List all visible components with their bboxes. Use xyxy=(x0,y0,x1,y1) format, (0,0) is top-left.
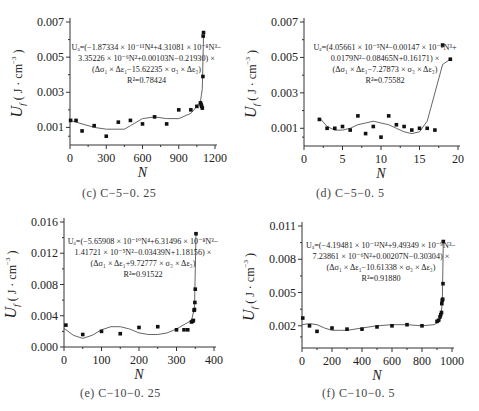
x-axis-label: N xyxy=(133,367,144,382)
fit-equation-line: R²=0.91522 xyxy=(123,270,162,279)
chart-d: 051015200.0010.0030.0050.007NUf ( J · cm… xyxy=(240,0,479,205)
data-point xyxy=(118,332,122,336)
fit-equation-line: R²=0.78424 xyxy=(127,76,166,85)
fit-equation-line: (Δσ₁ × Δε₁−15.62235 × σ₃ × Δε₃) xyxy=(92,65,201,74)
data-point xyxy=(193,301,197,305)
data-point xyxy=(193,287,197,291)
chart-panel-c: 030060090012000.0010.0030.0050.007NUf ( … xyxy=(0,0,240,205)
y-tick-label: 0.001 xyxy=(37,120,64,134)
y-tick-label: 0.002 xyxy=(269,319,296,333)
y-tick-label: 0.007 xyxy=(37,15,64,29)
data-point xyxy=(74,119,78,123)
caption-c: (c) C−5−0. 25 xyxy=(82,186,156,201)
fit-equation-line: Uₐ=(−4.19481 × 10⁻¹²N⁴+9.49349 × 10⁻⁹N³− xyxy=(306,241,456,250)
data-point xyxy=(345,327,349,331)
y-tick-label: 0.001 xyxy=(271,121,298,135)
y-axis-label: Uf ( J · cm−3 ) xyxy=(242,50,261,118)
data-point xyxy=(137,326,141,330)
fit-equation-line: R²=0.91880 xyxy=(361,274,400,283)
data-point xyxy=(177,108,181,112)
x-tick-label: 1000 xyxy=(440,354,464,368)
y-axis-label: Uf ( J · cm−3 ) xyxy=(8,50,27,118)
data-point xyxy=(449,57,453,61)
svg-text:Uf ( J · cm−3 ): Uf ( J · cm−3 ) xyxy=(2,251,21,319)
x-tick-label: 5 xyxy=(340,152,346,166)
data-point xyxy=(182,328,186,332)
y-tick-label: 0.012 xyxy=(31,246,58,260)
x-tick-label: 800 xyxy=(413,354,431,368)
chart-panel-f: 020040060080010000.0020.0050.0080.011NUf… xyxy=(240,210,479,411)
x-tick-label: 600 xyxy=(134,151,152,165)
data-point xyxy=(441,282,445,286)
fit-equation-line: Uₐ=(4.05661 × 10⁻⁵N⁴−0.00147 × 10⁻⁸N³+ xyxy=(313,43,457,52)
data-point xyxy=(201,106,205,110)
data-point xyxy=(387,114,391,118)
data-point xyxy=(364,132,368,136)
data-point xyxy=(425,126,429,130)
y-tick-label: 0.008 xyxy=(31,278,58,292)
data-point xyxy=(315,330,319,334)
data-point xyxy=(193,308,197,312)
x-tick-label: 200 xyxy=(323,354,341,368)
data-point xyxy=(390,324,394,328)
x-tick-label: 0 xyxy=(299,354,305,368)
data-point xyxy=(186,328,190,332)
y-axis-label: Uf ( J · cm−3 ) xyxy=(2,251,21,319)
x-tick-label: 600 xyxy=(383,354,401,368)
chart-panel-e: 01002003004000.0000.0040.0080.0120.016NU… xyxy=(0,210,240,411)
data-point xyxy=(348,128,352,132)
chart-f: 020040060080010000.0020.0050.0080.011NUf… xyxy=(240,210,479,411)
x-tick-label: 0 xyxy=(301,152,307,166)
data-point xyxy=(175,328,179,332)
data-point xyxy=(80,129,84,133)
data-point xyxy=(437,318,441,322)
y-axis-label: Uf ( J · cm−3 ) xyxy=(240,253,259,321)
svg-text:Uf ( J · cm−3 ): Uf ( J · cm−3 ) xyxy=(242,50,261,118)
data-point xyxy=(375,325,379,329)
chart-e: 01002003004000.0000.0040.0080.0120.016NU… xyxy=(0,210,240,411)
data-point xyxy=(189,108,193,112)
data-point xyxy=(192,319,196,323)
data-point xyxy=(330,326,334,330)
x-tick-label: 200 xyxy=(130,353,148,367)
y-tick-label: 0.007 xyxy=(271,15,298,29)
fit-equation-line: (Δσ₁ × Δε₁−7.27873 × σ₃ × Δε₃) xyxy=(333,65,438,74)
data-point xyxy=(410,128,414,132)
data-point xyxy=(156,325,160,329)
x-tick-label: 300 xyxy=(97,151,115,165)
data-point xyxy=(433,128,437,132)
data-point xyxy=(441,297,445,301)
data-point xyxy=(402,125,406,129)
x-tick-label: 20 xyxy=(452,152,464,166)
y-tick-label: 0.004 xyxy=(31,309,58,323)
data-point xyxy=(308,324,312,328)
data-point xyxy=(405,323,409,327)
data-point xyxy=(420,324,424,328)
data-point xyxy=(195,105,199,109)
data-point xyxy=(301,316,305,320)
y-tick-label: 0.011 xyxy=(269,219,296,233)
data-point xyxy=(325,126,329,130)
data-point xyxy=(69,119,73,123)
caption-f: (f) C−10−0. 5 xyxy=(322,386,395,401)
data-point xyxy=(333,126,337,130)
data-point xyxy=(165,122,169,126)
x-axis-label: N xyxy=(137,165,148,180)
y-tick-label: 0.008 xyxy=(269,252,296,266)
chart-panel-d: 051015200.0010.0030.0050.007NUf ( J · cm… xyxy=(240,0,479,205)
data-point xyxy=(360,327,364,331)
y-tick-label: 0.005 xyxy=(271,50,298,64)
data-point xyxy=(141,122,145,126)
data-point xyxy=(341,125,345,129)
data-point xyxy=(153,115,157,119)
x-axis-label: N xyxy=(375,166,386,181)
data-point xyxy=(194,232,198,236)
fit-equation-line: 1.41721 × 10⁻⁵N²−0.03439N+1.18156) × xyxy=(75,248,212,257)
data-point xyxy=(100,330,104,334)
data-point xyxy=(104,134,108,138)
x-tick-label: 100 xyxy=(93,353,111,367)
caption-d: (d) C−5−0. 5 xyxy=(316,186,385,201)
x-tick-label: 0 xyxy=(61,353,67,367)
x-tick-label: 300 xyxy=(168,353,186,367)
data-point xyxy=(117,120,121,124)
